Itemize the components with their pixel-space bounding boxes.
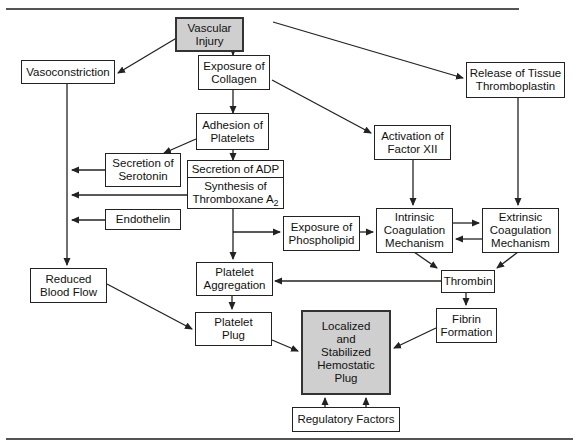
node-text: Synthesis of <box>204 178 267 193</box>
node-text: Endothelin <box>116 213 170 226</box>
node-text: Exposure of <box>291 221 352 234</box>
node-release-of-tissue-thromboplastin: Release of Tissue Thromboplastin <box>466 62 565 98</box>
node-endothelin: Endothelin <box>105 209 181 230</box>
node-fibrin-formation: Fibrin Formation <box>436 308 497 343</box>
node-text: Factor XII <box>388 143 438 156</box>
node-text: Vasoconstriction <box>26 66 110 79</box>
node-activation-of-factor-xii: Activation of Factor XII <box>374 125 451 160</box>
node-thrombin: Thrombin <box>441 270 495 293</box>
node-text: Mechanism <box>491 237 550 250</box>
node-text: Formation <box>441 326 493 339</box>
node-text: Platelet <box>215 266 253 279</box>
node-text: Aggregation <box>203 279 265 292</box>
node-text-thromboxane: Thromboxane A2 <box>192 193 278 210</box>
node-text-secretion-adp: Secretion of ADP <box>188 161 283 178</box>
node-localized-stabilized-hemostatic-plug: Localized and Stabilized Hemostatic Plug <box>301 310 391 395</box>
node-intrinsic-coagulation-mechanism: Intrinsic Coagulation Mechanism <box>376 208 453 253</box>
node-text: Intrinsic <box>395 211 435 224</box>
node-text: Plug <box>222 329 245 342</box>
node-text: Vascular <box>188 22 232 35</box>
node-text: Stabilized <box>321 346 371 359</box>
node-text: Plug <box>334 372 357 385</box>
subscript: 2 <box>274 198 279 208</box>
node-text: Reduced <box>45 273 91 286</box>
node-text: Fibrin <box>452 313 481 326</box>
node-text: Thrombin <box>444 275 493 288</box>
node-text: Mechanism <box>385 237 444 250</box>
node-text: Extrinsic <box>499 211 542 224</box>
node-vasoconstriction: Vasoconstriction <box>21 60 115 84</box>
node-secretion-adp-thromboxane: Secretion of ADP Synthesis of Thromboxan… <box>187 160 284 209</box>
node-exposure-of-collagen: Exposure of Collagen <box>198 55 270 90</box>
node-text: Exposure of <box>203 60 264 73</box>
node-regulatory-factors: Regulatory Factors <box>292 407 400 432</box>
node-text: Platelets <box>210 132 254 145</box>
node-text: Blood Flow <box>40 286 97 299</box>
node-text: Coagulation <box>490 224 551 237</box>
node-text: Regulatory Factors <box>297 413 394 426</box>
node-text: Hemostatic <box>317 359 375 372</box>
node-text: Collagen <box>211 73 256 86</box>
node-text: Injury <box>195 35 223 48</box>
node-adhesion-of-platelets: Adhesion of Platelets <box>196 113 269 150</box>
node-vascular-injury: Vascular Injury <box>175 17 244 52</box>
node-text: Thromboplastin <box>476 80 555 93</box>
node-text: Platelet <box>214 316 252 329</box>
node-platelet-plug: Platelet Plug <box>195 312 272 346</box>
node-text: Release of Tissue <box>470 67 561 80</box>
node-text: Coagulation <box>384 224 445 237</box>
node-secretion-of-serotonin: Secretion of Serotonin <box>105 153 181 187</box>
node-text: Serotonin <box>118 170 167 183</box>
node-text: Secretion of <box>112 157 173 170</box>
node-extrinsic-coagulation-mechanism: Extrinsic Coagulation Mechanism <box>482 208 559 253</box>
node-text: and <box>336 333 355 346</box>
node-exposure-of-phospholipid: Exposure of Phospholipid <box>283 216 360 251</box>
node-reduced-blood-flow: Reduced Blood Flow <box>30 268 107 303</box>
node-text: Localized <box>322 320 371 333</box>
node-platelet-aggregation: Platelet Aggregation <box>196 262 273 296</box>
node-text: Activation of <box>381 130 444 143</box>
node-text: Thromboxane A <box>192 193 273 205</box>
node-text: Adhesion of <box>202 119 263 132</box>
node-text: Phospholipid <box>289 234 355 247</box>
